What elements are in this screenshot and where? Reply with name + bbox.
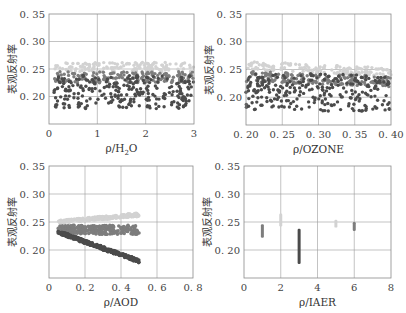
chart-panel-4: 0. 200. 250. 300. 3502468ρ/IAER表观反射率 (201, 161, 394, 309)
series-dark (52, 74, 195, 111)
figure-2x2-scatter: 0. 200. 250. 300. 350123ρ/H2O表观反射率0. 200… (0, 0, 406, 313)
x-tick-label: 0. 2 (75, 282, 94, 293)
y-tick-label: 0. 35 (20, 9, 45, 20)
x-tick-label: 2 (278, 282, 284, 293)
series-dark (244, 72, 391, 113)
chart-panel-3: 0. 200. 250. 300. 3500. 20. 40. 60. 8ρ/A… (6, 161, 203, 309)
x-tick-label: 0. 8 (183, 282, 202, 293)
x-tick-label: 8 (388, 282, 394, 293)
x-tick-label: 0. 40 (378, 129, 403, 140)
x-tick-label: 0. 25 (270, 129, 295, 140)
y-tick-label: 0. 30 (20, 36, 45, 47)
x-axis-label: ρ/AOD (104, 296, 138, 308)
y-tick-label: 0. 20 (217, 92, 242, 103)
y-tick-label: 0. 25 (20, 64, 45, 75)
series-iaer-6 (353, 222, 356, 231)
x-tick-label: 4 (314, 282, 320, 293)
y-tick-label: 0. 35 (215, 161, 240, 172)
x-axis-label: ρ/H2O (106, 142, 138, 157)
chart-panel-2: 0. 200. 250. 300. 350. 200. 250. 300. 35… (203, 9, 404, 156)
series-light (57, 212, 141, 225)
x-tick-label: 3 (191, 128, 197, 139)
x-tick-label: 0 (241, 282, 247, 293)
data-points (52, 61, 195, 111)
y-tick-label: 0. 30 (217, 36, 242, 47)
x-tick-label: 0 (46, 282, 52, 293)
y-axis-label: 表观反射率 (203, 45, 215, 95)
x-tick-label: 0 (46, 128, 52, 139)
x-tick-label: 0. 35 (342, 129, 367, 140)
x-tick-label: 2 (142, 128, 148, 139)
y-tick-label: 0. 25 (20, 217, 45, 228)
x-tick-label: 0. 6 (147, 282, 166, 293)
x-tick-label: 6 (351, 282, 357, 293)
y-tick-label: 0. 25 (215, 217, 240, 228)
y-tick-label: 0. 30 (215, 189, 240, 200)
data-points (261, 214, 356, 264)
series-iaer-5 (334, 220, 337, 228)
chart-panel-1: 0. 200. 250. 300. 350123ρ/H2O表观反射率 (6, 9, 197, 158)
y-tick-label: 0. 20 (20, 91, 45, 102)
y-tick-label: 0. 35 (20, 161, 45, 172)
x-axis-label: ρ/OZONE (293, 143, 344, 155)
y-tick-label: 0. 25 (217, 64, 242, 75)
y-tick-label: 0. 20 (20, 245, 45, 256)
data-points (56, 212, 140, 265)
series-iaer-1 (261, 224, 264, 237)
y-axis-label: 表观反射率 (6, 44, 18, 94)
x-tick-label: 0. 4 (111, 282, 130, 293)
series-iaer-3 (298, 229, 301, 264)
y-tick-label: 0. 20 (215, 245, 240, 256)
series-iaer-2 (279, 214, 282, 227)
y-tick-label: 0. 30 (20, 189, 45, 200)
series-mid (53, 70, 195, 84)
x-tick-label: 0. 30 (306, 129, 331, 140)
x-tick-label: 0. 20 (233, 129, 258, 140)
gridlines (244, 166, 391, 278)
y-tick-label: 0. 35 (217, 9, 242, 20)
y-axis-label: 表观反射率 (6, 197, 18, 247)
y-axis-label: 表观反射率 (201, 197, 213, 247)
x-tick-label: 1 (94, 128, 100, 139)
x-axis-label: ρ/IAER (299, 296, 337, 308)
